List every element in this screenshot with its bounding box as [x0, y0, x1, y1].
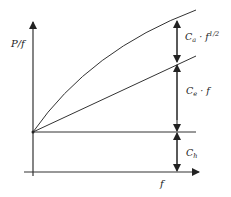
sqrt-curve [33, 10, 196, 132]
label-anomalous: Ca · f1/2 [185, 30, 219, 44]
origin-point [32, 131, 35, 134]
label-eddy: Ce · f [186, 85, 211, 98]
x-axis-label: f [159, 178, 166, 189]
label-hysteresis: Ch [186, 147, 197, 160]
loss-separation-diagram: P/f f Ca · f1/2 Ce · f Ch [0, 0, 231, 197]
linear-line [33, 56, 196, 132]
y-axis-label: P/f [10, 38, 27, 49]
